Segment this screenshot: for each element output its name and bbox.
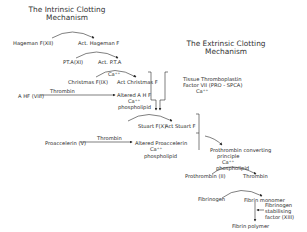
fsf-line3: factor (XIII) <box>265 215 294 221</box>
arrow-stuart-activation <box>128 115 172 122</box>
node-factor-vii: Factor VII (PRO - SPCA) <box>183 82 242 88</box>
node-hageman: Hageman F(XII) <box>13 40 53 46</box>
arrow-into-converting <box>205 136 222 145</box>
node-fibrin-polymer: Fibrin polymer <box>232 223 269 229</box>
node-thrombin-3: Thrombin <box>243 173 268 179</box>
node-ahf: A HF (VIII) <box>18 93 44 99</box>
arrow-pta-activation <box>76 52 118 58</box>
arrow-hageman-activation <box>52 32 94 38</box>
node-stuart: Stuart F(X) <box>138 123 166 129</box>
node-phospholipid-1: phospholipid <box>118 104 151 110</box>
node-act-pta: Act. P.T.A <box>98 59 121 65</box>
label-thrombin-1: Thrombin <box>50 88 75 94</box>
extrinsic-title-line2: Mechanism <box>176 48 276 56</box>
node-proaccelerin: Proaccelerin (V) <box>45 140 86 146</box>
node-fibrin-stabilising-factor: Fibrinogen stabilising factor (XIII) <box>265 203 294 220</box>
node-act-stuart: Act Stuart F <box>165 123 196 129</box>
node-ca-extrinsic: Ca⁺⁺ <box>196 88 208 94</box>
node-christmas: Christmas F(IX) <box>68 79 108 85</box>
node-act-christmas: Act Christmas F <box>117 79 158 85</box>
bracket-extrinsic <box>160 72 168 110</box>
node-phospholipid-3: phospholipid <box>216 165 249 171</box>
label-thrombin-2: Thrombin <box>97 135 122 141</box>
node-fibrinogen: Fibrinogen <box>198 196 225 202</box>
node-pta: PT.A(XI) <box>63 59 83 65</box>
intrinsic-title: The Intrinsic Clotting Mechanism <box>24 6 110 22</box>
node-ca-christmas: Ca⁺⁺ <box>108 71 120 77</box>
node-act-hageman: Act. Hageman F <box>78 40 119 46</box>
node-prothrombin: Prothrombin (II) <box>185 173 226 179</box>
intrinsic-title-line2: Mechanism <box>24 14 110 22</box>
bracket-act-stuart <box>196 114 199 133</box>
node-phospholipid-2: phospholipid <box>144 153 177 159</box>
node-ca-proaccelerin: Ca⁺⁺ <box>150 146 162 152</box>
extrinsic-title: The Extrinsic Clotting Mechanism <box>176 40 276 56</box>
